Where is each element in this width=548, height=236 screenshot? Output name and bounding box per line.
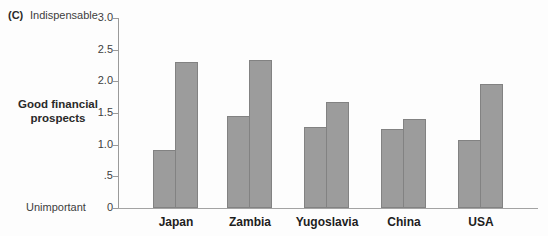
y-tick-label-1.5: 1.5	[79, 106, 113, 118]
y-tick-mark-1.0	[113, 145, 118, 146]
bar-usa-right-bar	[480, 84, 503, 208]
y-axis-line	[118, 18, 119, 209]
y-tick-mark-.5	[113, 176, 118, 177]
bar-usa-left-bar	[458, 140, 481, 208]
panel-label: (C)	[8, 9, 23, 21]
x-axis-line	[118, 208, 538, 209]
y-tick-label-0: 0	[79, 201, 113, 213]
bar-china-left-bar	[381, 129, 404, 208]
bar-japan-right-bar	[175, 62, 198, 208]
y-tick-label-3.0: 3.0	[79, 11, 113, 23]
y-tick-label-.5: .5	[79, 169, 113, 181]
y-tick-mark-3.0	[113, 18, 118, 19]
category-label-usa: USA	[436, 215, 526, 229]
y-tick-mark-1.5	[113, 113, 118, 114]
bar-yugoslavia-left-bar	[304, 127, 327, 208]
bar-zambia-left-bar	[227, 116, 250, 208]
y-tick-mark-2.5	[113, 50, 118, 51]
y-tick-label-2.0: 2.0	[79, 74, 113, 86]
y-tick-label-1.0: 1.0	[79, 138, 113, 150]
bar-yugoslavia-right-bar	[326, 102, 349, 208]
y-tick-label-2.5: 2.5	[79, 43, 113, 55]
bar-china-right-bar	[403, 119, 426, 208]
y-tick-mark-2.0	[113, 81, 118, 82]
figure-panel: (C) Indispensable Good financial prospec…	[0, 0, 548, 236]
bar-japan-left-bar	[153, 150, 176, 208]
y-annotation-unimportant: Unimportant	[26, 201, 86, 213]
bar-zambia-right-bar	[249, 60, 272, 208]
